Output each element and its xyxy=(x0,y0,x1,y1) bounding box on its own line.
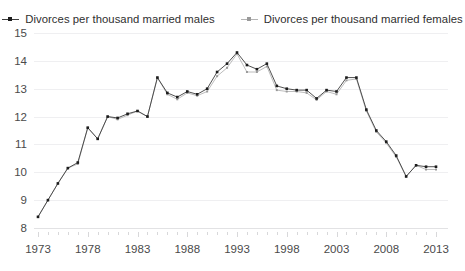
data-point-marker xyxy=(156,76,159,79)
x-axis-tick-label: 1998 xyxy=(274,243,300,255)
data-point-marker xyxy=(375,129,378,132)
x-axis-tickmark xyxy=(68,232,69,235)
data-point-marker xyxy=(395,154,398,157)
x-axis-tickmark xyxy=(177,232,178,235)
data-point-marker xyxy=(146,115,149,118)
x-axis-tickmark xyxy=(98,232,99,235)
data-point-marker xyxy=(435,169,437,171)
data-point-marker xyxy=(325,89,328,92)
x-axis-tickmark xyxy=(376,232,377,235)
series-line xyxy=(38,54,436,217)
x-axis-tickmark xyxy=(147,232,148,235)
data-point-marker xyxy=(176,96,179,99)
legend-marker-females-icon xyxy=(241,14,258,24)
x-axis-tickmark xyxy=(406,232,407,235)
x-axis-tick-label: 1983 xyxy=(125,243,151,255)
x-axis-tickmark xyxy=(426,232,427,235)
data-point-marker xyxy=(226,67,228,69)
data-point-marker xyxy=(305,89,308,92)
x-axis-tick-label: 2003 xyxy=(324,243,350,255)
data-point-marker xyxy=(276,85,279,88)
y-axis-tick-label: 8 xyxy=(21,222,27,234)
x-axis-tickmark xyxy=(58,232,59,235)
data-point-marker xyxy=(136,110,139,113)
y-axis-tick-label: 10 xyxy=(14,166,27,178)
line-chart: Divorces per thousand married males Divo… xyxy=(0,0,465,271)
data-point-marker xyxy=(286,91,288,93)
x-axis-tickmark xyxy=(287,232,288,237)
data-point-marker xyxy=(365,108,368,111)
data-point-marker xyxy=(226,62,229,65)
chart-legend: Divorces per thousand married males Divo… xyxy=(0,9,465,29)
data-point-marker xyxy=(345,79,347,81)
data-point-marker xyxy=(47,199,50,202)
x-axis-tickmark xyxy=(396,232,397,235)
data-point-marker xyxy=(236,51,239,54)
y-axis-tick-label: 14 xyxy=(14,55,27,67)
data-point-marker xyxy=(86,126,89,129)
x-axis-tickmark xyxy=(187,232,188,237)
x-axis-tickmark xyxy=(337,232,338,237)
data-point-marker xyxy=(216,75,218,77)
series-layer xyxy=(34,28,448,233)
legend-item-females: Divorces per thousand married females xyxy=(241,13,463,25)
data-point-marker xyxy=(57,182,60,185)
x-axis-tickmark xyxy=(436,232,437,237)
plot-area: 15141312111098 1973197819831988199319982… xyxy=(0,28,465,271)
x-axis-tickmark xyxy=(207,232,208,235)
data-point-marker xyxy=(425,169,427,171)
data-point-marker xyxy=(37,216,40,219)
x-axis-tickmark xyxy=(346,232,347,235)
x-axis-tick-label: 2013 xyxy=(423,243,449,255)
legend-label-males: Divorces per thousand married males xyxy=(25,13,214,25)
data-point-marker xyxy=(206,87,209,90)
x-axis-tickmark xyxy=(88,232,89,237)
x-axis-tickmark xyxy=(108,232,109,235)
x-axis-tickmark xyxy=(297,232,298,235)
x-axis-tickmark xyxy=(38,232,39,237)
x-axis-tickmark xyxy=(138,232,139,237)
data-point-marker xyxy=(176,98,178,100)
data-point-marker xyxy=(285,87,288,90)
data-point-marker xyxy=(336,93,338,95)
data-point-marker xyxy=(246,71,248,73)
data-point-marker xyxy=(425,165,428,168)
data-point-marker xyxy=(106,115,109,118)
data-point-marker xyxy=(256,71,258,73)
data-point-marker xyxy=(335,90,338,93)
data-point-marker xyxy=(246,64,249,67)
x-axis-tickmark xyxy=(307,232,308,235)
x-axis-tickmark xyxy=(267,232,268,235)
x-axis-tickmark xyxy=(257,232,258,235)
x-axis-tickmark xyxy=(237,232,238,237)
data-point-marker xyxy=(435,165,438,168)
data-point-marker xyxy=(385,140,388,143)
data-point-marker xyxy=(206,91,208,93)
y-axis-tick-label: 12 xyxy=(14,111,27,123)
legend-item-males: Divorces per thousand married males xyxy=(2,13,214,25)
data-point-marker xyxy=(216,71,219,74)
x-axis-tickmark xyxy=(48,232,49,235)
x-axis-tickmark xyxy=(247,232,248,235)
data-point-marker xyxy=(116,117,119,120)
x-axis-tickmark xyxy=(416,232,417,235)
data-point-marker xyxy=(415,164,418,167)
x-axis-tickmark xyxy=(277,232,278,235)
data-point-marker xyxy=(96,138,99,141)
x-axis-tick-label: 1978 xyxy=(75,243,101,255)
x-axis: 197319781983198819931998200320082013 xyxy=(34,232,448,271)
x-axis-tick-label: 1973 xyxy=(25,243,51,255)
data-point-marker xyxy=(306,92,308,94)
y-axis: 15141312111098 xyxy=(0,28,30,233)
x-axis-tickmark xyxy=(78,232,79,235)
data-point-marker xyxy=(276,89,278,91)
data-point-marker xyxy=(196,93,199,96)
data-point-marker xyxy=(405,175,408,178)
x-axis-tickmark xyxy=(167,232,168,235)
data-point-marker xyxy=(295,89,298,92)
data-point-marker xyxy=(266,62,269,65)
data-point-marker xyxy=(126,112,129,115)
x-axis-tickmark xyxy=(227,232,228,235)
x-axis-tick-label: 1993 xyxy=(224,243,250,255)
y-axis-tick-label: 9 xyxy=(21,194,27,206)
